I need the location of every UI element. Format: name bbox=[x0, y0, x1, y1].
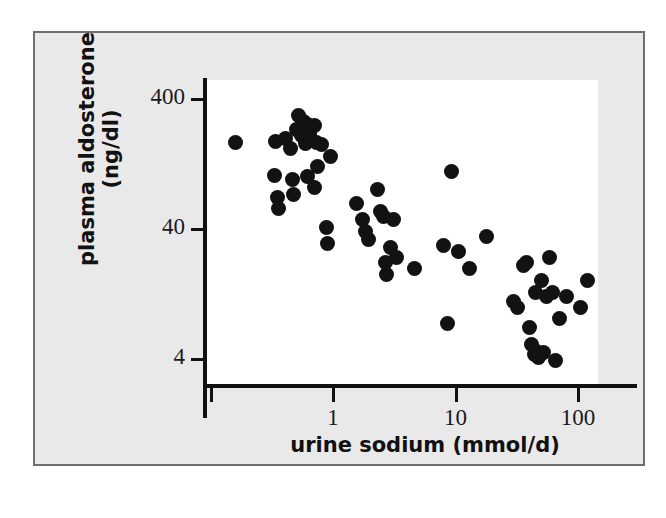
y-tick-label: 4 bbox=[35, 344, 185, 370]
y-tick-mark bbox=[191, 358, 205, 361]
y-axis-line bbox=[203, 78, 207, 418]
x-tick-mark bbox=[455, 387, 458, 402]
scatter-point bbox=[573, 300, 588, 315]
x-tick-label: 10 bbox=[444, 405, 467, 431]
x-tick-label: 100 bbox=[561, 405, 596, 431]
x-axis-line bbox=[203, 384, 637, 388]
scatter-point bbox=[320, 236, 335, 251]
scatter-point bbox=[271, 201, 286, 216]
scatter-point bbox=[386, 212, 401, 227]
scatter-point bbox=[534, 273, 549, 288]
scatter-point bbox=[451, 244, 466, 259]
scatter-point bbox=[462, 261, 477, 276]
scatter-point bbox=[307, 180, 322, 195]
scatter-point bbox=[323, 149, 338, 164]
y-axis-title: plasma aldosterone (ng/dl) bbox=[75, 19, 123, 279]
scatter-point bbox=[436, 238, 451, 253]
scatter-point bbox=[267, 168, 282, 183]
y-tick-mark bbox=[191, 98, 205, 101]
scatter-point bbox=[349, 196, 364, 211]
scatter-point bbox=[319, 220, 334, 235]
scatter-point bbox=[510, 300, 525, 315]
figure-frame: 440400 110100 plasma aldosterone (ng/dl)… bbox=[33, 31, 645, 466]
scatter-point bbox=[228, 135, 243, 150]
plot-panel bbox=[204, 80, 598, 385]
scatter-point bbox=[379, 267, 394, 282]
x-tick-mark bbox=[577, 387, 580, 402]
scatter-point bbox=[444, 164, 459, 179]
y-axis-title-line1: plasma aldosterone bbox=[75, 32, 99, 266]
scatter-point bbox=[522, 320, 537, 335]
x-tick-mark bbox=[332, 387, 335, 402]
x-tick-label: 1 bbox=[327, 405, 339, 431]
scatter-point bbox=[307, 118, 322, 133]
y-tick-mark bbox=[191, 228, 205, 231]
y-axis-title-line2: (ng/dl) bbox=[99, 19, 123, 279]
scatter-point bbox=[440, 316, 455, 331]
x-tick-mark bbox=[210, 387, 213, 402]
scatter-point bbox=[542, 250, 557, 265]
scatter-point bbox=[552, 311, 567, 326]
x-axis-title: urine sodium (mmol/d) bbox=[215, 433, 635, 457]
scatter-point bbox=[407, 261, 422, 276]
scatter-point bbox=[545, 285, 560, 300]
caption-partial-text bbox=[36, 500, 556, 518]
